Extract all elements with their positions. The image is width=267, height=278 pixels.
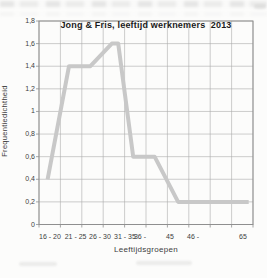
y-axis-title: Frequentiedichtheid [0,51,12,191]
y-tick-label: 1,4 [9,62,35,70]
frequency-density-chart: Jong & Fris, leeftijd werknemers 2013 Fr… [0,0,267,278]
y-tick-label: 0,8 [9,130,35,138]
y-tick-label: 0,4 [9,175,35,183]
y-tick-label: 1 [9,107,35,115]
y-tick-label: 0,6 [9,153,35,161]
chart-title: Jong & Fris, leeftijd werknemers 2013 [39,20,253,30]
y-tick-label: 1,2 [9,85,35,93]
y-tick-label: 0 [9,221,35,229]
y-tick-label: 1,6 [9,40,35,48]
y-tick-label: 1,8 [9,17,35,25]
data-line [48,44,249,202]
x-tick-label: 65 [213,233,267,241]
y-tick-label: 0,2 [9,198,35,206]
x-axis-title: Leeftijdsgroepen [76,245,216,254]
